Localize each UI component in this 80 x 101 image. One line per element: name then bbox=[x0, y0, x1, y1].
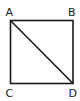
vertex-label-a: A bbox=[6, 6, 14, 19]
diagram-svg: A B C D bbox=[0, 0, 80, 101]
square-diagram: A B C D bbox=[0, 0, 80, 101]
vertex-label-d: D bbox=[69, 87, 77, 100]
vertex-label-c: C bbox=[6, 87, 14, 100]
vertex-label-b: B bbox=[68, 6, 76, 19]
diagonal-ad bbox=[11, 21, 74, 84]
